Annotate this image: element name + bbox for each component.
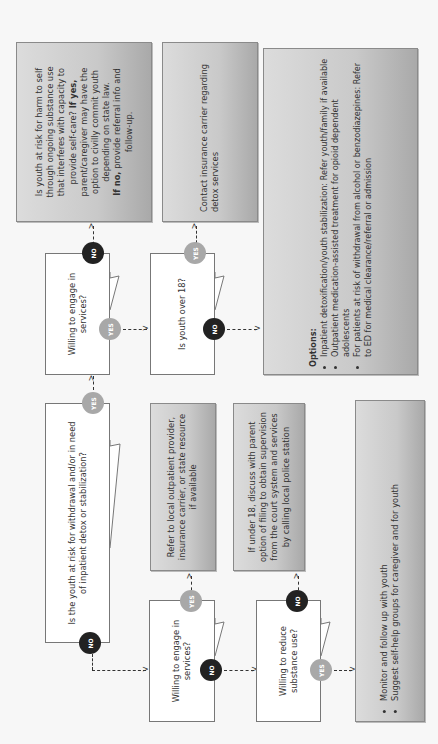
arrow-head: > — [142, 666, 149, 674]
no-badge: NO — [79, 632, 101, 654]
under-18-box: If under 18, discuss with parent option … — [233, 403, 305, 571]
callout-notch — [100, 272, 122, 312]
arrow-head: > — [254, 325, 261, 333]
contact-insurance-box: Contact insurance carrier regarding deto… — [162, 42, 258, 222]
option-item: For patients at risk of withdrawal from … — [352, 57, 374, 357]
callout-notch — [100, 440, 122, 550]
yes-badge: YES — [310, 659, 332, 681]
connector-line — [92, 670, 146, 671]
harm-risk-box: Is youth at risk for harm to self throug… — [16, 42, 152, 222]
monitor-item: Monitor and follow up with youth — [379, 411, 390, 701]
monitor-box: Monitor and follow up with youth Suggest… — [355, 400, 425, 722]
arrow-head: > — [293, 573, 301, 580]
connector-line — [224, 670, 254, 671]
yes-badge: YES — [184, 242, 206, 264]
monitor-item: Suggest self-help groups for caregiver a… — [390, 411, 401, 701]
option-item: Inpatient detoxification/youth stabiliza… — [319, 57, 330, 357]
yes-badge: YES — [99, 318, 121, 340]
monitor-content: Monitor and follow up with youth Suggest… — [379, 411, 401, 711]
options-content: Options: Inpatient detoxification/youth … — [308, 57, 374, 367]
harm-risk-text: Is youth at risk for harm to self throug… — [34, 46, 135, 218]
refer-outpatient-box: Refer to local outpatient provider, insu… — [150, 403, 216, 571]
yes-badge: YES — [180, 590, 202, 612]
option-item: Outpatient medication-assisted treatment… — [330, 57, 352, 357]
no-badge: NO — [203, 318, 225, 340]
no-badge: NO — [200, 659, 222, 681]
no-badge: NO — [286, 590, 308, 612]
arrow-head: > — [142, 325, 149, 333]
connector-line — [227, 329, 257, 330]
callout-notch — [311, 618, 333, 658]
arrow-head: > — [88, 223, 96, 230]
arrow-head: > — [191, 223, 199, 230]
arrow-head: > — [186, 573, 194, 580]
options-box: Options: Inpatient detoxification/youth … — [263, 48, 418, 375]
no-badge: NO — [82, 242, 104, 264]
arrow-head: > — [88, 375, 96, 382]
callout-notch — [205, 272, 227, 312]
connector-line — [92, 654, 93, 670]
callout-notch — [205, 618, 227, 658]
yes-badge: YES — [82, 392, 104, 414]
